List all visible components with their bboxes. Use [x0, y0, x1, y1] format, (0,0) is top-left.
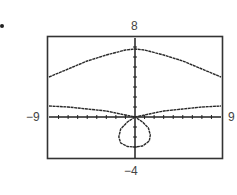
graph-plot — [0, 0, 237, 195]
axes — [49, 38, 221, 158]
